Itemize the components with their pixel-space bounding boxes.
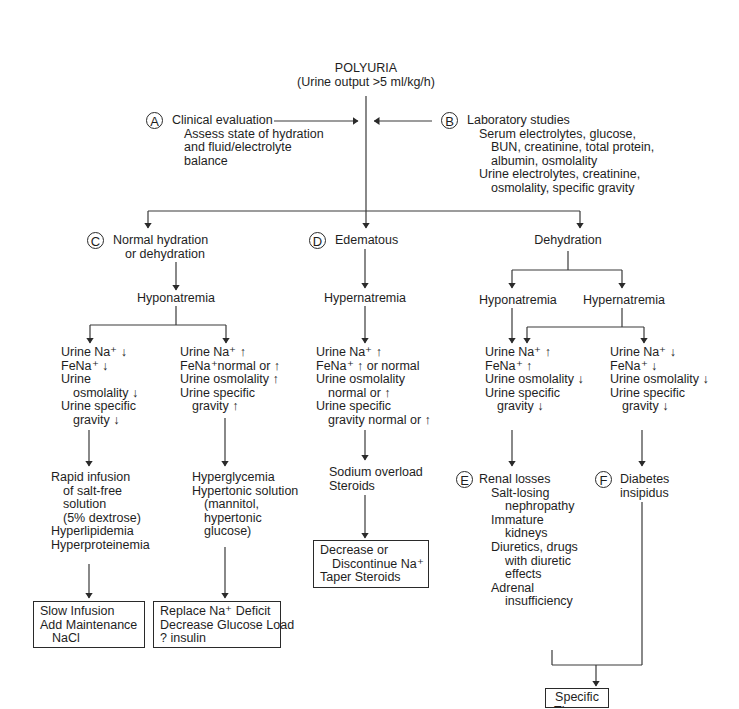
node-c-heading2: or dehydration [113, 248, 208, 262]
node-e-line: Immature [479, 514, 578, 528]
treatment-line: Specific [550, 691, 604, 705]
lab-line: Urine Na⁺ ↓ [61, 346, 138, 360]
node-e-line: kidneys [479, 527, 578, 541]
node-e-line: insufficiency [479, 595, 578, 609]
treatment-box-decrease-na: Decrease or Discontinue Na⁺ Taper Steroi… [313, 540, 429, 588]
node-b-line: Serum electrolytes, glucose, [467, 128, 654, 142]
node-d-hypernatremia: Hypernatremia [305, 292, 425, 306]
lab-line: normal or ↑ [316, 387, 431, 401]
marker-e: E [456, 471, 473, 488]
cause-line: Hyperlipidemia [51, 525, 150, 539]
treatment-box-slow-infusion: Slow Infusion Add Maintenance NaCl [33, 601, 145, 648]
node-a-heading: Clinical evaluation [172, 114, 324, 128]
treatment-line: Therapy [550, 705, 604, 708]
lab-line: Urine osmolality [316, 373, 431, 387]
node-dehydration: Dehydration [518, 234, 618, 248]
node-clinical-evaluation: Clinical evaluation Assess state of hydr… [172, 114, 324, 168]
marker-d: D [309, 232, 326, 249]
node-laboratory-studies: Laboratory studies Serum electrolytes, g… [467, 114, 654, 196]
cause-line: Rapid infusion [51, 471, 150, 485]
lab-line: FeNa⁺ ↓ [61, 360, 138, 374]
lab-line: gravity ↓ [485, 400, 584, 414]
node-f-line: Diabetes [620, 473, 669, 487]
node-e-heading: Renal losses [479, 473, 578, 487]
cause-line: Sodium overload [329, 466, 423, 480]
node-a-line: balance [172, 155, 324, 169]
node-b-line: BUN, creatinine, total protein, [467, 141, 654, 155]
cause-line: Hypertonic solution [192, 485, 298, 499]
node-b-line: osmolality, specific gravity [467, 182, 654, 196]
cause-line: glucose) [192, 525, 298, 539]
cause-line: of salt-free [51, 485, 150, 499]
node-e-line: Adrenal [479, 582, 578, 596]
treatment-line: ? insulin [160, 632, 274, 646]
lab-line: Urine osmolality ↑ [180, 373, 280, 387]
node-normal-hydration: Normal hydration or dehydration [113, 234, 208, 261]
lab-line: Urine [61, 373, 138, 387]
lab-line: Urine Na⁺ ↑ [180, 346, 280, 360]
lab-line: Urine specific [61, 400, 138, 414]
node-c-left-labs: Urine Na⁺ ↓ FeNa⁺ ↓ Urine osmolality ↓ U… [61, 346, 138, 428]
cause-line: solution [51, 498, 150, 512]
node-b-heading: Laboratory studies [467, 114, 654, 128]
treatment-line: Slow Infusion [40, 605, 138, 619]
node-c-hyponatremia: Hyponatremia [116, 292, 236, 306]
cause-line: Steroids [329, 480, 423, 494]
lab-line: Urine specific [316, 400, 431, 414]
node-e-line: Salt-losing [479, 487, 578, 501]
lab-line: FeNa⁺ ↓ [610, 360, 709, 374]
node-b-line: albumin, osmolality [467, 155, 654, 169]
lab-line: gravity ↓ [61, 414, 138, 428]
treatment-line: Decrease Glucose Load [160, 619, 274, 633]
cause-line: (5% dextrose) [51, 512, 150, 526]
node-dehydration-left-labs: Urine Na⁺ ↑ FeNa⁺ ↑ Urine osmolality ↓ U… [485, 346, 584, 414]
node-d-labs: Urine Na⁺ ↑ FeNa⁺ ↑ or normal Urine osmo… [316, 346, 431, 428]
lab-line: Urine specific [180, 387, 280, 401]
node-edematous: Edematous [335, 234, 398, 248]
title-main: POLYURIA [266, 62, 466, 76]
node-c-right-causes: Hyperglycemia Hypertonic solution (manni… [192, 471, 298, 539]
title-subtitle: (Urine output >5 ml/kg/h) [266, 76, 466, 90]
title-polyuria: POLYURIA (Urine output >5 ml/kg/h) [266, 62, 466, 89]
lab-line: Urine Na⁺ ↓ [610, 346, 709, 360]
treatment-line: NaCl [40, 632, 138, 646]
node-e-line: nephropathy [479, 500, 578, 514]
node-dehydration-right-labs: Urine Na⁺ ↓ FeNa⁺ ↓ Urine osmolality ↓ U… [610, 346, 709, 414]
node-e-line: effects [479, 568, 578, 582]
node-dehydration-hypernatremia: Hypernatremia [583, 294, 665, 308]
lab-line: osmolality ↓ [61, 387, 138, 401]
node-diabetes-insipidus: Diabetes insipidus [620, 473, 669, 500]
node-dehydration-hyponatremia: Hyponatremia [479, 294, 557, 308]
lab-line: FeNa⁺ ↑ [485, 360, 584, 374]
node-renal-losses: Renal losses Salt-losing nephropathy Imm… [479, 473, 578, 609]
treatment-line: Decrease or [320, 544, 422, 558]
node-b-line: Urine electrolytes, creatinine, [467, 168, 654, 182]
lab-line: gravity ↓ [610, 400, 709, 414]
node-c-right-labs: Urine Na⁺ ↑ FeNa⁺normal or ↑ Urine osmol… [180, 346, 280, 414]
node-a-line: and fluid/electrolyte [172, 141, 324, 155]
cause-line: (mannitol, [192, 498, 298, 512]
lab-line: Urine specific [485, 387, 584, 401]
treatment-line: Add Maintenance [40, 619, 138, 633]
treatment-line: Replace Na⁺ Deficit [160, 605, 274, 619]
node-e-line: with diuretic [479, 555, 578, 569]
treatment-line: Taper Steroids [320, 571, 422, 585]
node-d-causes: Sodium overload Steroids [329, 466, 423, 493]
node-a-line: Assess state of hydration [172, 128, 324, 142]
cause-line: hypertonic [192, 512, 298, 526]
lab-line: Urine osmolality ↓ [610, 373, 709, 387]
cause-line: Hyperglycemia [192, 471, 298, 485]
treatment-box-specific-therapy: Specific Therapy [545, 688, 609, 708]
marker-b: B [441, 112, 458, 129]
lab-line: Urine Na⁺ ↑ [485, 346, 584, 360]
marker-f: F [595, 471, 612, 488]
node-f-line: insipidus [620, 487, 669, 501]
lab-line: FeNa⁺ ↑ or normal [316, 360, 431, 374]
lab-line: gravity normal or ↑ [316, 414, 431, 428]
node-c-left-causes: Rapid infusion of salt-free solution (5%… [51, 471, 150, 553]
lab-line: gravity ↑ [180, 400, 280, 414]
lab-line: Urine osmolality ↓ [485, 373, 584, 387]
node-e-line: Diuretics, drugs [479, 541, 578, 555]
treatment-line: Discontinue Na⁺ [320, 558, 422, 572]
lab-line: Urine specific [610, 387, 709, 401]
